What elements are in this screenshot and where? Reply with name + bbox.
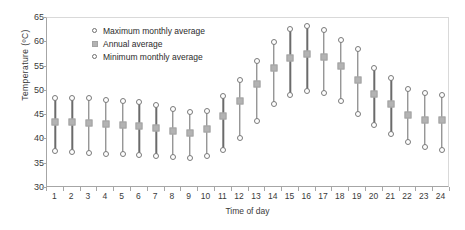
range-line [290,29,291,95]
annual-average-marker [253,81,260,88]
annual-average-marker [287,55,294,62]
annual-average-marker [388,100,395,107]
open-circle-icon-glyph [92,54,98,60]
range-line [239,80,240,138]
min-monthly-average-marker [204,153,210,159]
min-monthly-average-marker [304,88,310,94]
chart-legend: Maximum monthly averageAnnual averageMin… [88,24,205,63]
legend-item-label: Minimum monthly average [101,52,203,62]
annual-average-marker [69,119,76,126]
min-monthly-average-marker [237,135,243,141]
annual-average-marker [85,119,92,126]
range-line [323,30,324,93]
x-tick-mark [449,187,450,191]
max-monthly-average-marker [304,23,310,29]
max-monthly-average-marker [405,86,411,92]
range-line [307,26,308,92]
min-monthly-average-marker [371,122,377,128]
x-tick-label: 24 [431,191,451,201]
min-monthly-average-marker [120,151,126,157]
max-monthly-average-marker [422,90,428,96]
min-monthly-average-marker [103,151,109,157]
annual-average-marker [186,130,193,137]
min-monthly-average-marker [287,92,293,98]
legend-item-label: Annual average [101,39,163,49]
range-line [256,61,257,121]
legend-item: Maximum monthly average [88,24,205,37]
min-monthly-average-marker [153,153,159,159]
annual-average-marker [52,118,59,125]
max-monthly-average-marker [271,39,277,45]
y-tick-label: 60 [18,36,44,46]
y-tick-label: 35 [18,158,44,168]
min-monthly-average-marker [187,155,193,161]
min-monthly-average-marker [254,118,260,124]
annual-average-marker [237,98,244,105]
min-monthly-average-marker [136,152,142,158]
legend-item: Minimum monthly average [88,50,205,63]
open-circle-icon-glyph [92,28,98,34]
open-circle-icon [88,54,101,60]
range-line [206,111,207,156]
x-axis-title: Time of day [46,206,449,216]
annual-average-marker [153,125,160,132]
min-monthly-average-marker [170,154,176,160]
y-tick-label: 55 [18,61,44,71]
min-monthly-average-marker [220,147,226,153]
max-monthly-average-marker [338,37,344,43]
max-monthly-average-marker [136,99,142,105]
y-tick-label: 40 [18,133,44,143]
y-tick-label: 65 [18,12,44,22]
max-monthly-average-marker [52,95,58,101]
annual-average-marker [136,122,143,129]
max-monthly-average-marker [153,102,159,108]
min-monthly-average-marker [388,131,394,137]
min-monthly-average-marker [321,90,327,96]
min-monthly-average-marker [86,150,92,156]
y-tick-label: 30 [18,182,44,192]
legend-item-label: Maximum monthly average [101,26,205,36]
max-monthly-average-marker [103,97,109,103]
min-monthly-average-marker [355,111,361,117]
annual-average-marker [169,127,176,134]
annual-average-marker [270,64,277,71]
annual-average-marker [371,90,378,97]
range-line [340,40,341,101]
annual-average-marker [102,120,109,127]
min-monthly-average-marker [338,98,344,104]
max-monthly-average-marker [204,108,210,114]
max-monthly-average-marker [237,77,243,83]
max-monthly-average-marker [86,95,92,101]
min-monthly-average-marker [271,101,277,107]
max-monthly-average-marker [439,92,445,98]
max-monthly-average-marker [120,98,126,104]
annual-average-marker [405,112,412,119]
y-tick-label: 45 [18,109,44,119]
min-monthly-average-marker [69,149,75,155]
annual-average-marker [337,63,344,70]
temperature-range-chart: Temperature (ºC) 3035404550556065 123456… [0,0,465,230]
gray-square-icon [88,41,101,47]
annual-average-marker [438,117,445,124]
max-monthly-average-marker [254,58,260,64]
x-tick-mark [46,187,47,191]
annual-average-marker [354,76,361,83]
max-monthly-average-marker [170,106,176,112]
max-monthly-average-marker [388,75,394,81]
open-circle-icon [88,28,101,34]
annual-average-marker [203,126,210,133]
min-monthly-average-marker [439,147,445,153]
max-monthly-average-marker [321,27,327,33]
max-monthly-average-marker [355,46,361,52]
annual-average-marker [321,54,328,61]
annual-average-marker [304,51,311,58]
y-tick-label: 50 [18,85,44,95]
max-monthly-average-marker [287,26,293,32]
range-line [273,42,274,105]
annual-average-marker [220,113,227,120]
range-line [223,96,224,150]
legend-item: Annual average [88,37,205,50]
min-monthly-average-marker [52,148,58,154]
max-monthly-average-marker [187,109,193,115]
min-monthly-average-marker [422,144,428,150]
